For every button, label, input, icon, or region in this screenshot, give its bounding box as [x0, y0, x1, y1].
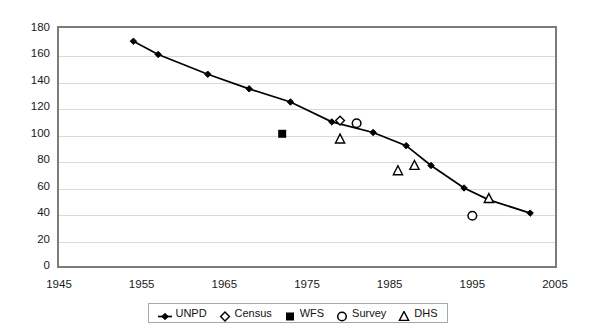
- y-tick-label: 60: [4, 181, 50, 193]
- data-point-open-triangle: [400, 311, 409, 320]
- data-point-filled-diamond: [155, 51, 161, 57]
- y-tick-label: 160: [4, 48, 50, 60]
- y-tick-label: 100: [4, 128, 50, 140]
- data-point-filled-diamond: [205, 71, 211, 77]
- x-tick-label: 2005: [525, 279, 585, 291]
- data-point-open-triangle: [335, 134, 344, 143]
- legend-marker-open-diamond-icon: [218, 308, 232, 319]
- x-tick-label: 1985: [360, 279, 420, 291]
- y-tick-label: 80: [4, 154, 50, 166]
- data-point-filled-diamond: [329, 119, 335, 125]
- data-point-open-circle: [338, 312, 347, 321]
- data-point-filled-diamond: [130, 38, 136, 44]
- y-tick-label: 0: [4, 260, 50, 272]
- series-dhs: [335, 134, 493, 202]
- legend-label: UNPD: [175, 308, 206, 319]
- x-tick-label: 1955: [112, 279, 172, 291]
- y-tick-label: 20: [4, 234, 50, 246]
- legend-item-survey[interactable]: Survey: [335, 308, 386, 319]
- y-tick-label: 120: [4, 101, 50, 113]
- data-point-filled-diamond: [527, 210, 533, 216]
- legend-marker-filled-square-icon: [283, 308, 297, 319]
- y-tick-label: 180: [4, 22, 50, 34]
- x-tick-label: 1945: [29, 279, 89, 291]
- legend-item-wfs[interactable]: WFS: [283, 308, 324, 319]
- y-tick-label: 140: [4, 75, 50, 87]
- data-point-open-circle: [352, 119, 361, 128]
- x-tick-label: 1995: [442, 279, 502, 291]
- data-point-open-diamond: [220, 312, 229, 321]
- legend-label: WFS: [300, 308, 324, 319]
- plot-area: [57, 26, 557, 268]
- data-point-filled-diamond: [370, 129, 376, 135]
- legend-item-unpd[interactable]: UNPD: [158, 308, 206, 319]
- legend-label: Census: [235, 308, 272, 319]
- legend-label: Survey: [352, 308, 386, 319]
- series-wfs: [278, 130, 286, 138]
- legend-label: DHS: [414, 308, 437, 319]
- data-point-filled-diamond: [287, 99, 293, 105]
- legend-marker-filled-diamond-icon: [158, 308, 172, 319]
- data-point-open-triangle: [410, 161, 419, 170]
- legend-item-census[interactable]: Census: [218, 308, 272, 319]
- series-line: [133, 41, 530, 213]
- data-point-filled-diamond: [246, 86, 252, 92]
- data-point-open-circle: [468, 211, 477, 220]
- data-point-filled-square: [286, 312, 294, 320]
- series-layer: [59, 28, 555, 266]
- data-point-open-triangle: [393, 166, 402, 175]
- chart-screenshot: 020406080100120140160180 194519551965197…: [0, 0, 596, 332]
- y-tick-label: 40: [4, 207, 50, 219]
- x-tick-label: 1975: [277, 279, 337, 291]
- data-point-filled-square: [278, 130, 286, 138]
- legend-marker-open-triangle-icon: [397, 308, 411, 319]
- data-point-filled-diamond: [162, 313, 168, 319]
- x-tick-label: 1965: [194, 279, 254, 291]
- legend-marker-open-circle-icon: [335, 308, 349, 319]
- legend-item-dhs[interactable]: DHS: [397, 308, 437, 319]
- chart-legend: UNPDCensusWFSSurveyDHS: [148, 303, 448, 323]
- series-unpd: [130, 38, 533, 216]
